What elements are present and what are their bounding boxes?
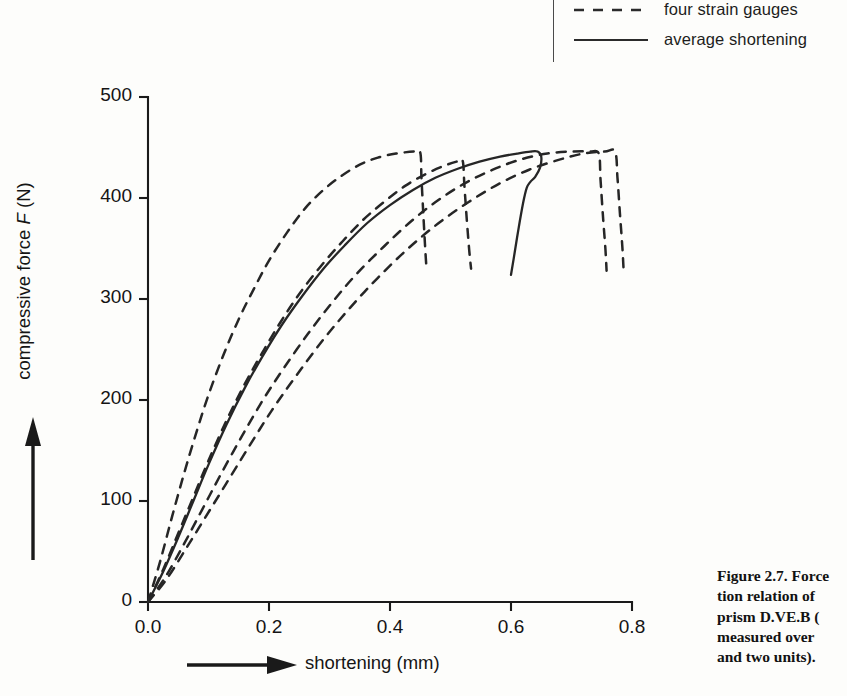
x-axis-tick-label: 0.2 [234, 616, 304, 638]
caption-line: prism D.VE.B ( [717, 607, 847, 627]
y-axis-tick-label: 200 [72, 387, 132, 409]
x-axis-title-text: shortening (mm) [305, 652, 440, 673]
x-axis-tick-label: 0.8 [597, 616, 667, 638]
caption-line: and two units). [717, 647, 847, 667]
x-axis-title: shortening (mm) [305, 652, 440, 674]
y-axis-title-text: compressive force F (N) [13, 182, 34, 379]
series-line [148, 150, 624, 602]
axis-ticks [139, 97, 632, 611]
figure-caption: Figure 2.7. Force tion relation of prism… [717, 566, 847, 667]
y-axis-tick-label: 300 [72, 286, 132, 308]
x-axis-tick-label: 0.0 [113, 616, 183, 638]
series-line [148, 151, 541, 602]
figure-force-shortening: four strain gauges average shortening 01… [0, 0, 847, 696]
data-series [148, 150, 624, 602]
y-axis-tick-label: 400 [72, 185, 132, 207]
x-axis-tick-label: 0.6 [476, 616, 546, 638]
x-axis-arrow-icon [185, 650, 305, 680]
series-line [148, 159, 471, 602]
axes [148, 97, 632, 602]
y-axis-tick-label: 500 [72, 84, 132, 106]
series-line [148, 150, 426, 602]
series-line [148, 151, 607, 602]
caption-line: Figure 2.7. Force [717, 566, 847, 586]
y-axis-tick-label: 0 [72, 589, 132, 611]
y-axis-arrow-icon [20, 412, 46, 562]
caption-line: tion relation of [717, 586, 847, 606]
x-axis-tick-label: 0.4 [355, 616, 425, 638]
y-axis-tick-label: 100 [72, 488, 132, 510]
caption-line: measured over [717, 627, 847, 647]
